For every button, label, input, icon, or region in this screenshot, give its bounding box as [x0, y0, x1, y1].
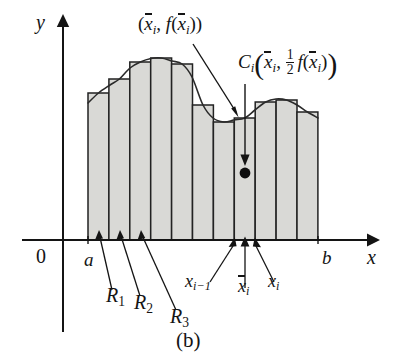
centroid-xbar-symbol: x: [264, 52, 272, 71]
a-label: a: [84, 250, 94, 269]
riemann-rectangle: [109, 79, 130, 240]
c-symbol: C: [238, 51, 251, 72]
partition-label-x-mid: xi: [238, 277, 249, 298]
curve-point-label: (xi, f(xi)): [138, 14, 202, 37]
region-label-r2: R2: [134, 292, 153, 315]
r3-symbol: R: [170, 305, 182, 327]
x-axis-label: x: [367, 247, 376, 267]
y-axis-label: y: [36, 12, 45, 32]
fraction-denominator: 2: [286, 63, 295, 77]
centroid-fx-xbar-symbol: x: [309, 52, 317, 71]
partition-label-x-prev: xi−1: [185, 272, 211, 293]
partition-label-x-next: xi: [268, 272, 279, 293]
riemann-rectangle: [88, 93, 109, 240]
r2-subscript: 2: [146, 301, 153, 316]
fx-xbar-symbol: x: [177, 14, 185, 33]
paren-close: ): [196, 13, 202, 34]
region-label-r1: R1: [106, 285, 125, 308]
centroid-comma: ,: [276, 51, 286, 72]
riemann-rectangle: [130, 62, 151, 240]
fraction-numerator: 1: [286, 48, 295, 63]
riemann-rectangle: [172, 64, 193, 240]
r1-symbol: R: [106, 284, 118, 306]
y-axis: [57, 14, 69, 332]
figure-container: y x 0 a b (xi, f(xi)) Ci(xi, 12f(xi)) R1…: [0, 0, 393, 361]
riemann-rectangle: [193, 105, 214, 240]
origin-label: 0: [36, 246, 46, 266]
riemann-rectangle: [276, 100, 297, 240]
x-mid-symbol: x: [238, 277, 246, 295]
x-prev-subscript: i−1: [193, 279, 211, 293]
one-half-fraction: 12: [286, 48, 295, 77]
centroid-dot: [240, 168, 251, 179]
comma: ,: [156, 13, 166, 34]
r2-symbol: R: [134, 291, 146, 313]
x-next-subscript: i: [276, 279, 279, 293]
figure-caption: (b): [176, 328, 201, 353]
x-prev-symbol: x: [185, 271, 193, 291]
centroid-label: Ci(xi, 12f(xi)): [238, 48, 337, 77]
riemann-rectangle: [213, 122, 234, 240]
centroid-paren-open: (: [254, 48, 264, 80]
region-label-r3: R3: [170, 306, 189, 329]
b-label: b: [322, 248, 332, 267]
riemann-rectangle: [255, 102, 276, 240]
xbar-symbol: x: [144, 14, 152, 33]
riemann-rectangle: [151, 58, 172, 240]
riemann-rectangles-group: [88, 58, 318, 240]
x-next-symbol: x: [268, 271, 276, 291]
riemann-rectangle: [297, 112, 318, 240]
centroid-paren-close: ): [327, 48, 337, 80]
x-mid-subscript: i: [246, 284, 249, 298]
r1-subscript: 1: [118, 294, 125, 309]
